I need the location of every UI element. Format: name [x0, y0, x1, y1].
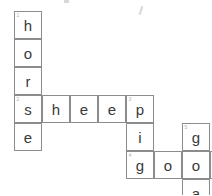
cell-number: 4 — [129, 152, 132, 158]
crossword-cell[interactable]: h — [42, 95, 70, 123]
cell-letter: h — [52, 102, 60, 117]
cell-letter: o — [192, 158, 200, 173]
crossword-cell[interactable]: 5g — [182, 123, 210, 151]
crossword-grid: 1hor2sehee3pi4goose5gat6ca — [0, 0, 212, 195]
crossword-cell[interactable]: o — [154, 151, 182, 179]
cell-number: 5 — [185, 124, 188, 130]
crossword-cell[interactable]: e — [14, 123, 42, 151]
cell-letter: p — [136, 102, 144, 117]
cell-letter: e — [24, 130, 32, 145]
crossword-cell[interactable]: a — [182, 179, 210, 195]
crossword-cell[interactable]: i — [126, 123, 154, 151]
cell-letter: o — [24, 46, 32, 61]
cell-letter: a — [192, 186, 200, 196]
cell-letter: i — [138, 130, 141, 145]
cell-number: 1 — [17, 12, 20, 18]
cell-letter: h — [24, 18, 32, 33]
cell-letter: o — [164, 158, 172, 173]
crossword-cell[interactable]: 3p — [126, 95, 154, 123]
crossword-cell[interactable]: e — [98, 95, 126, 123]
cell-letter: e — [80, 102, 88, 117]
crossword-cell[interactable]: r — [14, 67, 42, 95]
crossword-cell[interactable]: 2s — [14, 95, 42, 123]
cell-letter: e — [108, 102, 116, 117]
crossword-cell[interactable]: s — [210, 151, 212, 179]
crossword-cell[interactable]: 4g — [126, 151, 154, 179]
cell-number: 2 — [17, 96, 20, 102]
cell-letter: g — [192, 130, 200, 145]
stray-mark-top — [64, 0, 69, 3]
stray-mark-right — [139, 6, 144, 15]
crossword-cell[interactable]: e — [70, 95, 98, 123]
crossword-cell[interactable]: o — [14, 39, 42, 67]
cell-letter: s — [24, 102, 32, 117]
cell-letter: r — [26, 74, 31, 89]
crossword-cell[interactable]: 1h — [14, 11, 42, 39]
crossword-cell[interactable]: o — [182, 151, 210, 179]
cell-number: 3 — [129, 96, 132, 102]
cell-letter: g — [136, 158, 144, 173]
